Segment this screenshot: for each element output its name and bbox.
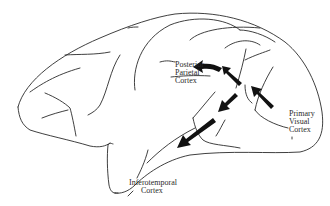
brain-diagram: Posterior Parietal Cortex Primary Visual… [0,0,330,206]
label-line: Cortex [175,77,204,85]
brain-outline-drawing [0,0,330,206]
ventral-stream-arrow-2 [177,118,216,148]
ventral-stream-arrow-1 [218,93,238,112]
label-inferotemporal-cortex: Inferotemporal Cortex [129,179,177,195]
label-line: Cortex [289,126,315,134]
label-line: Cortex [129,187,177,195]
label-posterior-parietal-cortex: Posterior Parietal Cortex [175,61,204,85]
dorsal-stream-arrow [222,66,242,86]
label-primary-visual-cortex: Primary Visual Cortex [289,110,315,134]
arrow-from-primary-visual [251,86,274,109]
